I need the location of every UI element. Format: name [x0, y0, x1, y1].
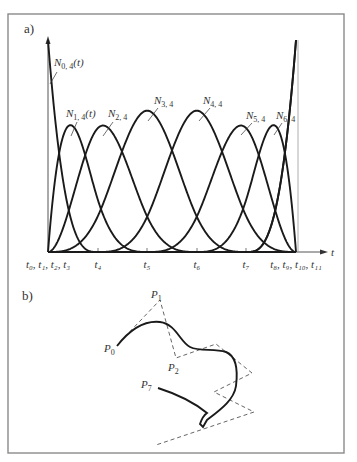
- basis-curves: [48, 40, 296, 252]
- basis-label: N6, 4: [275, 109, 295, 124]
- control-polygon: [120, 300, 254, 445]
- basis-curve: [48, 111, 296, 252]
- control-point-label: P7: [140, 378, 152, 393]
- basis-label: N3, 4: [153, 94, 173, 109]
- basis-curve: [48, 126, 296, 252]
- control-point-label: P2: [167, 361, 179, 376]
- knot-label: t₅: [144, 258, 151, 270]
- control-point-label: P1: [150, 288, 162, 303]
- panel-a-label: a): [24, 21, 34, 36]
- basis-curve: [48, 111, 296, 252]
- panel-b-label: b): [22, 288, 33, 303]
- knot-label: t₄: [95, 258, 102, 270]
- basis-curve: [48, 125, 296, 252]
- figure: a) t t₀, t₁, t₂, t₃t₄t₅t₆t₇t₈, t₉, t₁₀, …: [0, 0, 357, 462]
- control-point-label: P0: [103, 342, 115, 357]
- basis-curve-last: [246, 40, 296, 252]
- basis-curve: [48, 125, 296, 252]
- knot-label: t₈, t₉, t₁₀, t₁₁: [270, 258, 322, 270]
- basis-label: N4, 4: [202, 94, 222, 109]
- basis-label: N2, 4: [107, 107, 127, 122]
- knot-label: t₇: [243, 258, 250, 270]
- t-axis-label: t: [331, 246, 335, 258]
- control-point-labels: P0P1P2P7: [103, 288, 179, 393]
- knot-label: t₆: [194, 258, 201, 270]
- basis-curve: [48, 40, 296, 252]
- knot-labels: t₀, t₁, t₂, t₃t₄t₅t₆t₇t₈, t₉, t₁₀, t₁₁: [26, 258, 322, 270]
- t-axis-arrow-icon: [320, 250, 328, 255]
- basis-label: N1, 4(t): [65, 107, 96, 122]
- knot-label: t₀, t₁, t₂, t₃: [26, 258, 70, 270]
- basis-label: N0, 4(t): [53, 56, 84, 71]
- basis-labels: N0, 4(t)N1, 4(t)N2, 4N3, 4N4, 4N5, 4N6, …: [50, 56, 295, 136]
- basis-curve: [48, 40, 296, 252]
- basis-curve: [48, 126, 296, 252]
- basis-label: N5, 4: [245, 109, 265, 124]
